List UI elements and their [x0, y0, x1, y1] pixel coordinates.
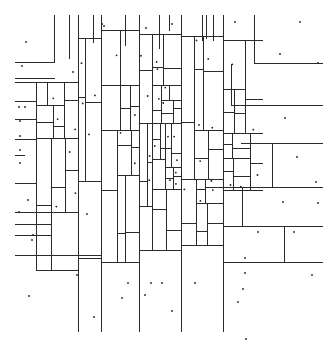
data-point [74, 129, 76, 131]
partition-dense-lines [37, 31, 263, 271]
data-point [19, 149, 21, 151]
data-point [211, 127, 213, 129]
data-point [157, 68, 159, 70]
data-point [121, 297, 123, 299]
partition-major-lines [15, 15, 323, 332]
kd-tree-diagram [0, 0, 334, 342]
data-point [21, 65, 23, 67]
data-point [167, 136, 169, 138]
data-point [244, 257, 246, 259]
data-point [257, 174, 259, 176]
data-point [173, 136, 175, 138]
data-point [149, 155, 151, 157]
data-point [18, 106, 20, 108]
data-point [175, 183, 177, 185]
data-point [162, 102, 164, 104]
data-point [134, 162, 136, 164]
data-point [24, 106, 26, 108]
data-point [116, 54, 118, 56]
data-point [194, 282, 196, 284]
data-point [52, 97, 54, 99]
data-point [244, 272, 246, 274]
data-point [25, 41, 27, 43]
data-point [237, 301, 239, 303]
data-point [299, 21, 301, 23]
data-point [86, 213, 88, 215]
data-point [164, 87, 166, 89]
data-point [19, 135, 21, 137]
data-point [88, 134, 90, 136]
data-point [183, 189, 185, 191]
data-point [101, 23, 103, 25]
data-point [211, 180, 213, 182]
data-point [200, 200, 202, 202]
data-point [171, 310, 173, 312]
data-point [144, 294, 146, 296]
data-point [69, 151, 71, 153]
data-point [150, 282, 152, 284]
data-point [27, 199, 29, 201]
data-point [198, 124, 200, 126]
data-point [94, 95, 96, 97]
data-point [103, 25, 105, 27]
data-point [93, 316, 95, 318]
data-point [72, 71, 74, 73]
data-point [147, 95, 149, 97]
data-point [176, 159, 178, 161]
data-point [317, 202, 319, 204]
data-point [311, 274, 313, 276]
data-point [293, 231, 295, 233]
data-point [234, 21, 236, 23]
data-point [161, 282, 163, 284]
data-point [32, 234, 34, 236]
data-point [19, 162, 21, 164]
data-point [81, 62, 83, 64]
data-point [296, 156, 298, 158]
data-point [242, 288, 244, 290]
data-point [257, 231, 259, 233]
data-point [245, 338, 247, 340]
data-point [196, 40, 198, 42]
data-point [76, 274, 78, 276]
data-point [31, 239, 33, 241]
data-point [154, 145, 156, 147]
data-point [19, 120, 21, 122]
data-point [230, 184, 232, 186]
data-point [120, 132, 122, 134]
data-point [156, 61, 158, 63]
data-point [28, 295, 30, 297]
data-point [212, 189, 214, 191]
data-point [75, 192, 77, 194]
data-point [55, 206, 57, 208]
data-point [158, 98, 160, 100]
data-point [82, 102, 84, 104]
data-point [315, 181, 317, 183]
data-point [282, 201, 284, 203]
data-point [284, 117, 286, 119]
data-point [169, 179, 171, 181]
data-point [240, 186, 242, 188]
data-point [317, 62, 319, 64]
data-point [171, 23, 173, 25]
data-point [18, 211, 20, 213]
data-point [134, 114, 136, 116]
data-point [57, 118, 59, 120]
data-point [175, 172, 177, 174]
data-point [207, 58, 209, 60]
data-point [231, 63, 233, 65]
data-point [127, 282, 129, 284]
data-point [140, 55, 142, 57]
data-point [252, 129, 254, 131]
data-point [279, 53, 281, 55]
data-point [199, 160, 201, 162]
data-point [145, 27, 147, 29]
data-point [148, 179, 150, 181]
